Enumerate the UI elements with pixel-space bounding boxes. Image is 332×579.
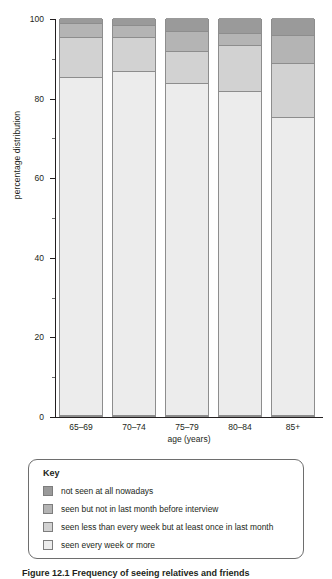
legend-swatch-icon (43, 486, 53, 496)
bar-segment (60, 78, 102, 416)
bar-segment (60, 24, 102, 38)
bar-segment (113, 38, 155, 72)
legend-item-2[interactable]: seen less than every week but at least o… (43, 520, 273, 534)
legend-item-0[interactable]: not seen at all nowadays (43, 484, 153, 498)
chart-plot-area: percentage distribution 020406080100 65–… (0, 0, 332, 445)
bar-segment (219, 46, 261, 92)
bar-segment (166, 18, 208, 32)
bar-segment (219, 18, 261, 34)
bar-segment (166, 52, 208, 84)
bar-segment (113, 26, 155, 38)
legend-item-label: seen less than every week but at least o… (61, 522, 273, 532)
x-tick-label-4: 85+ (258, 422, 328, 432)
legend-swatch-icon (43, 522, 53, 532)
bar-segment (219, 92, 261, 416)
stacked-bars-group (55, 19, 323, 417)
x-axis-line (55, 417, 323, 418)
bar-segment (60, 38, 102, 78)
bar-segment (113, 72, 155, 416)
legend-item-label: not seen at all nowadays (61, 486, 153, 496)
bar-segment (219, 34, 261, 46)
y-tick-label-60: 60 (20, 173, 44, 183)
bar-segment (272, 36, 314, 64)
y-tick-label-0: 0 (20, 412, 44, 422)
legend-swatch-icon (43, 540, 53, 550)
bar-segment (166, 32, 208, 52)
y-tick-label-80: 80 (20, 94, 44, 104)
legend-item-3[interactable]: seen every week or more (43, 538, 155, 552)
bar-segment (113, 18, 155, 26)
bar-segment (60, 18, 102, 24)
bar-segment (272, 64, 314, 118)
bar-segment (272, 18, 314, 36)
legend-item-label: seen but not in last month before interv… (61, 504, 218, 514)
y-tick-label-40: 40 (20, 253, 44, 263)
figure-container: percentage distribution 020406080100 65–… (0, 0, 332, 579)
bar-segment (272, 118, 314, 417)
bar-80-84[interactable] (218, 19, 262, 417)
bar-65-69[interactable] (59, 19, 103, 417)
bar-85-[interactable] (271, 19, 315, 417)
legend-title: Key (43, 468, 60, 478)
legend-item-label: seen every week or more (61, 540, 155, 550)
bar-70-74[interactable] (112, 19, 156, 417)
x-axis-title: age (years) (55, 434, 323, 444)
legend-swatch-icon (43, 504, 53, 514)
bar-segment (166, 84, 208, 416)
bar-75-79[interactable] (165, 19, 209, 417)
y-tick-label-20: 20 (20, 332, 44, 342)
y-tick-label-100: 100 (20, 14, 44, 24)
figure-caption: Figure 12.1 Frequency of seeing relative… (22, 568, 322, 579)
legend-item-1[interactable]: seen but not in last month before interv… (43, 502, 218, 516)
y-tick-0 (50, 417, 55, 418)
legend-key-box: Key not seen at all nowadaysseen but not… (28, 459, 304, 559)
